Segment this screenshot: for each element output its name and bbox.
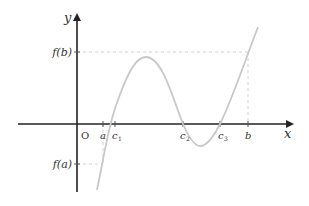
origin-label: O bbox=[81, 130, 89, 141]
tick-label-fb: f(b) bbox=[51, 46, 72, 59]
guide-lines bbox=[77, 52, 248, 164]
function-graph: y x O a c 1 c 2 c 3 b f(b) f(a) bbox=[0, 0, 309, 206]
tick-label-fa: f(a) bbox=[52, 158, 72, 171]
x-axis-label: x bbox=[284, 126, 292, 141]
svg-text:3: 3 bbox=[224, 135, 228, 142]
tick-label-b: b bbox=[245, 130, 251, 141]
svg-text:1: 1 bbox=[118, 135, 122, 142]
tick-label-c3: c 3 bbox=[218, 130, 228, 142]
y-axis-label: y bbox=[63, 10, 72, 25]
tick-label-c1: c 1 bbox=[112, 130, 122, 142]
svg-text:2: 2 bbox=[186, 135, 190, 142]
function-curve bbox=[97, 27, 258, 190]
tick-label-c2: c 2 bbox=[180, 130, 190, 142]
tick-label-a: a bbox=[100, 130, 106, 141]
